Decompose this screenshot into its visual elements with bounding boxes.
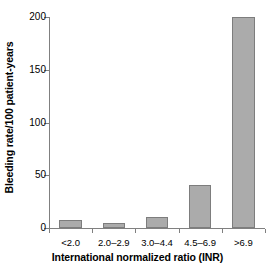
y-axis-line — [49, 17, 50, 229]
y-tick-label: 0 — [40, 221, 46, 234]
y-tick-label: 100 — [29, 116, 46, 129]
y-tick-label: 150 — [29, 63, 46, 76]
bar-category-3 — [189, 185, 211, 228]
x-axis-line — [49, 228, 265, 229]
x-category-label-2: 3.0–4.4 — [141, 237, 173, 249]
x-tick-mark — [265, 229, 266, 233]
y-axis-title: Bleeding rate/100 patient-years — [2, 2, 16, 233]
x-tick-mark — [222, 229, 223, 233]
y-tick-label: 200 — [29, 10, 46, 23]
bar-category-0 — [59, 220, 81, 228]
x-category-label-1: 2.0–2.9 — [98, 237, 130, 249]
bar-category-2 — [146, 217, 168, 228]
plot-area: 0 50 100 150 200 <2.0 — [49, 17, 265, 228]
x-tick-mark — [135, 229, 136, 233]
x-tick-mark — [179, 229, 180, 233]
y-tick-label: 50 — [35, 168, 46, 181]
x-category-label-4: >6.9 — [234, 237, 253, 249]
bar-category-1 — [103, 223, 125, 228]
bar-chart-figure: Bleeding rate/100 patient-years 0 50 100… — [0, 0, 275, 271]
x-tick-mark — [49, 229, 50, 233]
x-axis-title: International normalized ratio (INR) — [0, 251, 275, 263]
x-tick-mark — [92, 229, 93, 233]
bar-category-4 — [232, 17, 254, 228]
x-category-label-0: <2.0 — [61, 237, 80, 249]
x-category-label-3: 4.5–6.9 — [184, 237, 216, 249]
